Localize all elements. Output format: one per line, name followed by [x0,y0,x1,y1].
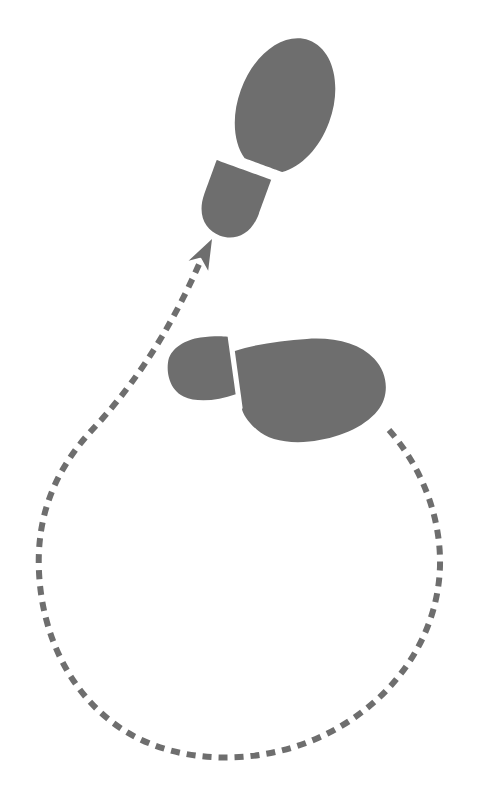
dashed-path-group [39,248,440,757]
upper-footprint-sole [219,24,353,181]
path-arrowhead [189,234,222,271]
lower-footprint-sole [233,328,392,451]
lower-footprint [164,328,392,451]
footprints-path-illustration [0,0,477,798]
path-arrowhead-group [189,234,222,271]
lower-footprint-heel [164,334,236,406]
upper-footprint-heel [193,160,271,246]
illustration-canvas: Two gray shoe-sole footprints, the lower… [0,0,477,798]
upper-footprint [193,24,353,245]
dashed-loop-path [39,248,440,757]
